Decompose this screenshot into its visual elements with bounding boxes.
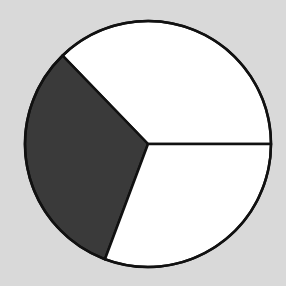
pie-chart bbox=[0, 0, 286, 286]
